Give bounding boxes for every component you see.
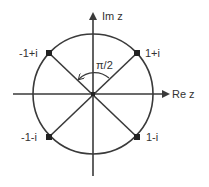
point-minus-1-minus-i [46,134,52,140]
point-minus-1-plus-i [46,50,52,56]
angle-label: π/2 [96,59,113,71]
angle-arc [79,73,109,79]
complex-plane-diagram: Im z Re z π/2 1+i -1+i -1-i 1-i [0,0,209,187]
point-1-plus-i [134,50,140,56]
point-label-1-minus-i: 1-i [146,131,158,143]
point-label-minus-1-plus-i: -1+i [19,47,38,59]
point-label-1-plus-i: 1+i [145,47,160,59]
point-1-minus-i [134,134,140,140]
real-axis-label: Re z [172,88,195,100]
origin-point [91,92,95,96]
imaginary-axis-label: Im z [102,10,123,22]
point-label-minus-1-minus-i: -1-i [21,131,37,143]
